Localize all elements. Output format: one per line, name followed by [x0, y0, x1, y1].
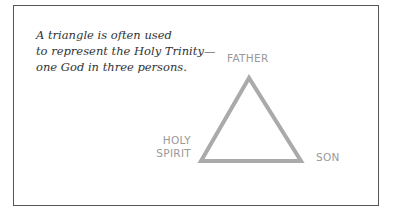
label-spirit: SPIRIT: [149, 147, 191, 160]
label-holy-spirit: HOLY SPIRIT: [149, 134, 191, 160]
label-father: FATHER: [227, 52, 268, 65]
label-son: SON: [316, 151, 340, 164]
trinity-triangle: [0, 0, 395, 222]
label-holy: HOLY: [149, 134, 191, 147]
